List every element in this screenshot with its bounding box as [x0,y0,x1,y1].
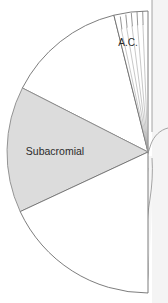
shoulder-referral-zone-diagram: Subacromial A.C. [0,0,168,303]
label-acromioclavicular: A.C. [118,37,137,48]
diagram-canvas: Subacromial A.C. [0,0,168,303]
torso-fill [152,0,168,303]
label-subacromial: Subacromial [26,145,84,157]
